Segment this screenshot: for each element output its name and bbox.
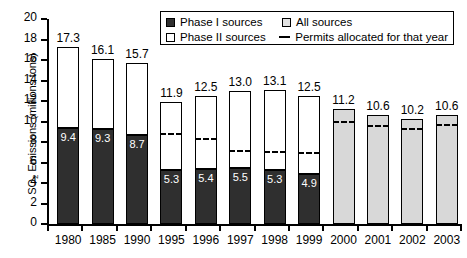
bar-segment-phase-i: 5.3 xyxy=(264,170,286,224)
bar-2001[interactable]: 10.6 xyxy=(367,115,389,224)
x-axis-tick xyxy=(116,224,118,231)
bar-segment-all-sources xyxy=(436,115,458,224)
bar-total-label: 10.6 xyxy=(359,99,397,113)
bar-segment-phase-i: 5.4 xyxy=(195,169,217,224)
y-axis-tick-label: 2 xyxy=(30,195,37,209)
bar-1997[interactable]: 5.513.0 xyxy=(229,91,251,224)
x-axis-tick xyxy=(254,224,256,231)
bar-1995[interactable]: 5.311.9 xyxy=(160,102,182,224)
legend-item-all-sources: All sources xyxy=(282,17,352,28)
bar-segment-phase-ii xyxy=(160,102,182,170)
x-axis-tick xyxy=(426,224,428,231)
bar-2002[interactable]: 10.2 xyxy=(401,119,423,224)
x-axis-tick xyxy=(150,224,152,231)
bar-1998[interactable]: 5.313.1 xyxy=(264,90,286,224)
empty-square-icon xyxy=(166,33,175,42)
bar-segment-phase-i-value: 4.9 xyxy=(299,177,319,189)
x-axis-tick-label: 1999 xyxy=(292,233,326,247)
bar-segment-phase-ii xyxy=(92,59,114,129)
bar-segment-phase-ii xyxy=(229,91,251,168)
bar-total-label: 10.6 xyxy=(428,99,466,113)
bar-total-label: 12.5 xyxy=(187,80,225,94)
x-axis-tick-label: 1985 xyxy=(85,233,119,247)
bar-segment-phase-i: 9.4 xyxy=(57,128,79,224)
y-axis-tick: 18 xyxy=(41,39,47,41)
permits-allocated-line xyxy=(401,128,423,130)
x-axis-tick xyxy=(322,224,324,231)
y-axis-line xyxy=(47,19,49,225)
bar-segment-phase-i-value: 9.4 xyxy=(58,131,78,143)
dashed-line-icon xyxy=(279,36,290,38)
legend-row-2: Phase II sources Permits allocated for t… xyxy=(166,30,448,44)
permits-allocated-line xyxy=(264,151,286,153)
bar-segment-phase-i-value: 5.3 xyxy=(265,173,285,185)
y-axis-tick: 20 xyxy=(41,18,47,20)
bar-total-label: 13.1 xyxy=(256,74,294,88)
bar-2003[interactable]: 10.6 xyxy=(436,115,458,224)
bar-1980[interactable]: 9.417.3 xyxy=(57,47,79,224)
bar-segment-phase-ii xyxy=(195,96,217,169)
permits-allocated-line xyxy=(367,125,389,127)
bar-segment-phase-i-value: 5.5 xyxy=(230,171,250,183)
bar-segment-phase-ii xyxy=(264,90,286,170)
bar-total-label: 11.2 xyxy=(325,93,363,107)
y-axis-tick-label: 6 xyxy=(30,154,37,168)
x-axis-tick xyxy=(47,224,49,231)
permits-allocated-line xyxy=(160,133,182,135)
permits-allocated-line xyxy=(229,150,251,152)
bar-2000[interactable]: 11.2 xyxy=(333,109,355,224)
x-axis-tick-label: 1998 xyxy=(258,233,292,247)
y-axis-tick: 6 xyxy=(41,162,47,164)
legend-item-phase-ii-sources: Phase II sources xyxy=(166,32,279,43)
legend-label-phase-i: Phase I sources xyxy=(180,17,262,28)
x-axis-tick-label: 2002 xyxy=(395,233,429,247)
so2-emissions-chart: SO2 Emissions (millions tons) 0246810121… xyxy=(0,0,467,258)
bar-total-label: 16.1 xyxy=(84,43,122,57)
bar-total-label: 12.5 xyxy=(290,80,328,94)
permits-allocated-line xyxy=(298,152,320,154)
bar-total-label: 17.3 xyxy=(49,31,87,45)
bar-segment-phase-i: 8.7 xyxy=(126,135,148,224)
permits-allocated-line xyxy=(195,138,217,140)
legend-label-phase-ii: Phase II sources xyxy=(180,32,266,43)
bar-1990[interactable]: 8.715.7 xyxy=(126,63,148,224)
bar-segment-phase-i-value: 5.4 xyxy=(196,172,216,184)
x-axis-tick xyxy=(81,224,83,231)
x-axis-tick xyxy=(288,224,290,231)
bar-segment-phase-i: 5.3 xyxy=(160,170,182,224)
bar-total-label: 15.7 xyxy=(118,47,156,61)
y-axis-tick-label: 0 xyxy=(30,215,37,229)
legend-label-all-sources: All sources xyxy=(296,17,352,28)
x-axis-tick-label: 2000 xyxy=(326,233,360,247)
y-axis-tick-label: 20 xyxy=(24,10,37,24)
legend-item-phase-i-sources: Phase I sources xyxy=(166,17,282,28)
x-axis-tick-label: 2001 xyxy=(361,233,395,247)
bar-segment-phase-i-value: 8.7 xyxy=(127,138,147,150)
bar-segment-all-sources xyxy=(401,119,423,224)
bar-1996[interactable]: 5.412.5 xyxy=(195,96,217,224)
y-axis-tick: 10 xyxy=(41,121,47,123)
y-axis-tick-label: 10 xyxy=(24,113,37,127)
bar-segment-phase-ii xyxy=(57,47,79,128)
bar-segment-phase-i: 5.5 xyxy=(229,168,251,224)
y-axis-tick-label: 18 xyxy=(24,31,37,45)
bar-1985[interactable]: 9.316.1 xyxy=(92,59,114,224)
y-axis-tick: 14 xyxy=(41,80,47,82)
x-axis-tick xyxy=(357,224,359,231)
light-square-icon xyxy=(282,18,291,27)
x-axis-tick xyxy=(185,224,187,231)
bar-segment-phase-ii xyxy=(126,63,148,135)
bar-segment-all-sources xyxy=(367,115,389,224)
y-axis-tick: 2 xyxy=(41,203,47,205)
x-axis-tick-label: 1990 xyxy=(120,233,154,247)
permits-allocated-line xyxy=(436,124,458,126)
y-axis-tick: 16 xyxy=(41,59,47,61)
x-axis-tick xyxy=(219,224,221,231)
x-axis-tick xyxy=(391,224,393,231)
filled-square-icon xyxy=(166,18,175,27)
y-axis-tick-label: 8 xyxy=(30,133,37,147)
bar-segment-phase-i-value: 5.3 xyxy=(161,173,181,185)
bar-1999[interactable]: 4.912.5 xyxy=(298,96,320,224)
y-axis-tick: 12 xyxy=(41,100,47,102)
permits-allocated-line xyxy=(333,121,355,123)
